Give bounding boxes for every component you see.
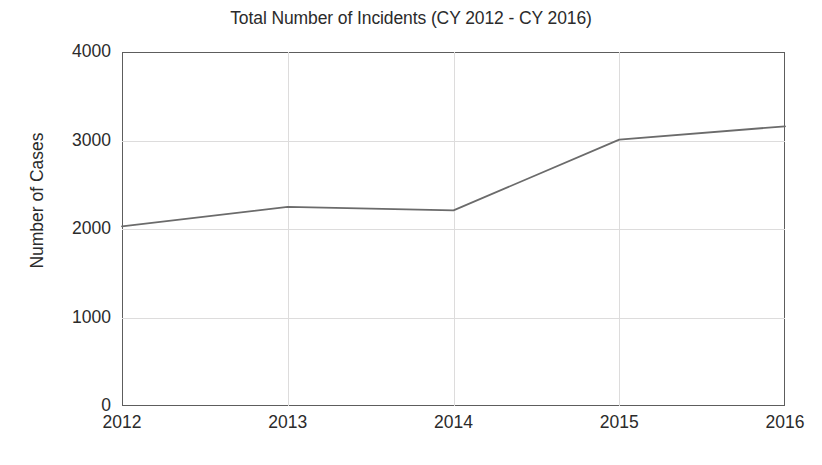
y-tick-label: 4000	[1, 41, 111, 62]
x-tick-label: 2013	[218, 412, 358, 433]
x-tick-label: 2016	[715, 412, 822, 433]
x-tick-label: 2015	[549, 412, 689, 433]
y-tick-label: 3000	[1, 130, 111, 151]
x-axis-tick-labels: 20122013201420152016	[122, 412, 785, 442]
y-tick-label: 1000	[1, 307, 111, 328]
chart-figure: Total Number of Incidents (CY 2012 - CY …	[0, 0, 822, 465]
x-tick-label: 2012	[52, 412, 192, 433]
data-series-line	[122, 52, 785, 406]
series-polyline	[122, 126, 785, 226]
chart-title: Total Number of Incidents (CY 2012 - CY …	[0, 8, 822, 29]
y-axis-tick-labels: 01000200030004000	[0, 52, 111, 406]
plot-area	[122, 52, 785, 406]
y-tick-label: 2000	[1, 218, 111, 239]
x-tick-label: 2014	[384, 412, 524, 433]
